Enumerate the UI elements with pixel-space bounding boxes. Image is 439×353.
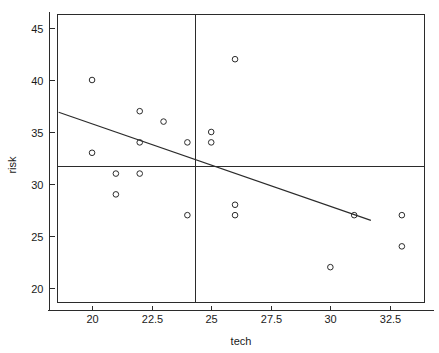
- scatter-plot-figure: 2022.52527.53032.5 202530354045 tech ris…: [0, 0, 439, 353]
- y-tick-label: 40: [31, 75, 43, 87]
- data-point: [89, 77, 95, 83]
- plot-frame-rect: [58, 15, 425, 303]
- data-point: [232, 212, 238, 218]
- y-tick-label: 20: [31, 283, 43, 295]
- plot-frame: [58, 15, 425, 303]
- data-point: [399, 244, 405, 250]
- data-point: [399, 212, 405, 218]
- data-point: [113, 171, 119, 177]
- x-axis: 2022.52527.53032.5: [48, 306, 434, 325]
- reference-lines-group: [58, 15, 425, 303]
- x-tick-label: 20: [86, 313, 98, 325]
- data-point: [232, 202, 238, 208]
- data-point: [137, 108, 143, 114]
- y-axis: 202530354045: [31, 12, 54, 311]
- x-tick-label: 30: [324, 313, 336, 325]
- data-point: [185, 140, 191, 146]
- data-point: [232, 56, 238, 62]
- y-axis-title: risk: [6, 156, 18, 174]
- data-point: [161, 119, 167, 125]
- x-tick-label: 25: [205, 313, 217, 325]
- x-tick-label: 32.5: [380, 313, 401, 325]
- y-tick-label: 45: [31, 23, 43, 35]
- data-point: [113, 192, 119, 198]
- y-tick-label: 35: [31, 127, 43, 139]
- data-point: [137, 171, 143, 177]
- x-tick-label: 27.5: [261, 313, 282, 325]
- data-points-group: [89, 56, 404, 270]
- data-point: [208, 140, 214, 146]
- data-point: [185, 212, 191, 218]
- data-point: [208, 129, 214, 135]
- data-point: [89, 150, 95, 156]
- plot-canvas: 2022.52527.53032.5 202530354045 tech ris…: [0, 0, 439, 353]
- data-point: [328, 264, 334, 270]
- y-tick-label: 30: [31, 179, 43, 191]
- x-axis-title: tech: [231, 335, 252, 347]
- x-tick-label: 22.5: [142, 313, 163, 325]
- y-tick-label: 25: [31, 231, 43, 243]
